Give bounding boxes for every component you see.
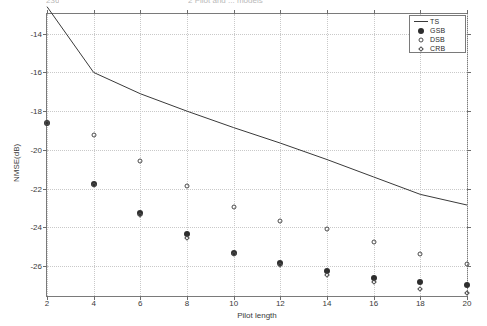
marker-dsb [138,159,143,164]
x-tick-label: 2 [45,299,49,308]
marker-gsb [418,280,422,284]
legend-symbol-filled-dot-icon [413,27,430,35]
legend-symbol-line-icon [413,18,430,26]
x-axis-label: Pilot length [237,311,277,320]
plot-area [46,13,468,297]
x-tick [187,296,188,300]
legend-symbol-open-diamond-icon [413,45,430,53]
figure-page: 236 2 Pilot and ... models NMSE(dB) Pilo… [0,0,487,326]
marker-dsb [465,262,470,267]
ts-curve [47,7,467,205]
x-tick-label: 20 [463,299,472,308]
legend-label: TS [430,18,439,26]
x-tick [234,296,235,300]
marker-dsb [278,218,283,223]
y-tick-label: -18 [20,107,42,116]
y-tick-right [467,189,471,190]
legend-open-diamond-icon [418,46,424,52]
y-tick-right [467,227,471,228]
y-tick-label: -22 [20,184,42,193]
legend-label: DSB [430,36,445,44]
y-tick-label: -24 [20,223,42,232]
gridline-vertical [467,14,468,296]
x-tick-label: 16 [369,299,378,308]
marker-dsb [371,239,376,244]
legend-item-crb: CRB [413,45,462,53]
y-tick-right [467,72,471,73]
y-tick-label: -26 [20,262,42,271]
y-tick-label: -14 [20,29,42,38]
x-tick-label: 14 [323,299,332,308]
x-tick-label: 18 [416,299,425,308]
x-tick [280,296,281,300]
x-tick [327,296,328,300]
y-tick-right [467,150,471,151]
x-tick [140,296,141,300]
chart-legend: TSGSBDSBCRB [409,15,466,53]
marker-dsb [418,252,423,257]
marker-dsb [91,133,96,138]
nmse-vs-pilot-length-chart: NMSE(dB) Pilot length -14-16-18-20-22-24… [0,0,487,326]
legend-item-ts: TS [413,18,462,26]
x-tick-label: 8 [185,299,189,308]
x-tick [47,296,48,300]
x-tick-label: 6 [138,299,142,308]
y-tick-right [467,34,471,35]
series-lines [47,14,467,296]
legend-label: GSB [430,27,445,35]
marker-dsb [231,204,236,209]
x-tick [467,296,468,300]
x-tick-label: 12 [276,299,285,308]
legend-item-dsb: DSB [413,36,462,44]
x-tick [420,296,421,300]
marker-dsb [325,227,330,232]
marker-dsb [185,183,190,188]
legend-open-circle-icon [419,38,424,43]
legend-item-gsb: GSB [413,27,462,35]
x-tick-label: 4 [91,299,95,308]
marker-gsb [465,283,469,287]
y-tick-label: -16 [20,68,42,77]
y-tick-label: -20 [20,145,42,154]
y-tick-right [467,111,471,112]
x-tick [374,296,375,300]
legend-label: CRB [430,45,445,53]
legend-filled-dot-icon [419,29,423,33]
x-tick-label: 10 [229,299,238,308]
legend-line-icon [414,21,428,22]
x-tick [94,296,95,300]
legend-symbol-open-circle-icon [413,36,430,44]
x-tick-top [467,10,468,14]
